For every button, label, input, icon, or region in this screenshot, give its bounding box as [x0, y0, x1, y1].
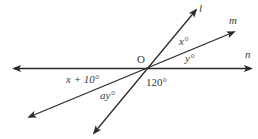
- angle-ay-label: ay°: [100, 89, 115, 101]
- angle-y-label: y°: [184, 52, 195, 64]
- point-o-label: O: [137, 53, 145, 65]
- angle-120-label: 120°: [146, 76, 167, 88]
- line-l-label: l: [199, 2, 202, 14]
- angle-diagram: O l m n x° y° x + 10° 120° ay°: [0, 0, 258, 139]
- angle-x-plus-10-label: x + 10°: [65, 73, 100, 85]
- line-n-label: n: [245, 48, 251, 60]
- line-m: [29, 32, 234, 117]
- line-m-label: m: [229, 14, 237, 26]
- line-l: [94, 10, 196, 133]
- angle-x-label: x°: [178, 35, 189, 47]
